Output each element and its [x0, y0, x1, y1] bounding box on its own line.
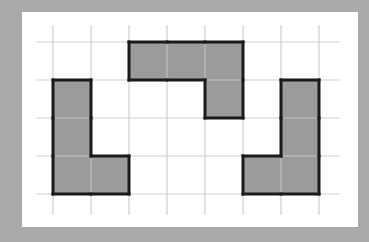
shape-cell — [205, 80, 243, 118]
shape-cell — [53, 118, 91, 156]
shape-cell — [243, 156, 281, 194]
shape-cell — [281, 156, 319, 194]
shape-cell — [91, 156, 129, 194]
shape-cell — [281, 118, 319, 156]
grid-diagram — [0, 0, 369, 242]
shape-cell — [281, 80, 319, 118]
shape-cell — [53, 156, 91, 194]
shape-cell — [129, 42, 167, 80]
shape-cell — [167, 42, 205, 80]
shape-cell — [53, 80, 91, 118]
shape-cell — [205, 42, 243, 80]
